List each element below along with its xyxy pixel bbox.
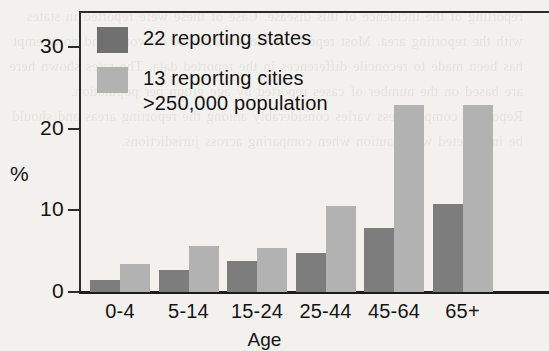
bar (159, 270, 189, 292)
bar (296, 253, 326, 292)
y-axis-tick-label: 10 (4, 197, 64, 221)
legend-label: 22 reporting states (143, 26, 312, 51)
x-axis-title: Age (0, 329, 529, 351)
plot-frame-left-axis (79, 11, 81, 293)
bar (433, 204, 463, 292)
legend-swatch (97, 27, 128, 53)
y-axis-tick (68, 209, 79, 211)
bar (257, 248, 287, 292)
bar (394, 105, 424, 292)
bar (463, 105, 493, 292)
chart-legend: 22 reporting states13 reporting cities >… (97, 26, 328, 129)
bar (326, 206, 356, 292)
legend-entry: 13 reporting cities >250,000 population (97, 66, 328, 116)
legend-entry: 22 reporting states (97, 26, 328, 53)
y-axis-tick (68, 46, 79, 48)
y-axis-tick-label: 20 (4, 116, 64, 140)
legend-swatch (97, 67, 128, 93)
bar (90, 280, 120, 292)
y-axis-tick-label: 30 (4, 34, 64, 58)
plot-frame-top-border (79, 11, 549, 13)
bar (120, 264, 150, 292)
y-axis-title: % (10, 162, 29, 186)
y-axis-tick-label: 0 (4, 279, 64, 303)
x-axis-tick-label: 65+ (418, 300, 508, 323)
y-axis-tick (68, 128, 79, 130)
bar (189, 246, 219, 292)
y-axis-tick (68, 291, 79, 293)
bar (364, 228, 394, 292)
bar (227, 261, 257, 292)
legend-label: 13 reporting cities >250,000 population (143, 66, 328, 116)
